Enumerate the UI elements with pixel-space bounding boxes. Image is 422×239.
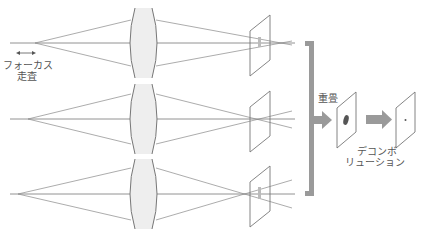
deconvolution-label-line2: リューション — [345, 157, 405, 168]
focus-sweep-label-line1: フォーカス — [3, 60, 53, 71]
row-2-setup — [10, 84, 295, 154]
row-3-setup — [10, 159, 295, 229]
superposition-bracket — [305, 41, 314, 196]
focus-sweep-label-line2: 走査 — [17, 71, 37, 82]
focus-sweep-arrow-icon — [16, 51, 36, 55]
deconvolved-image-plane — [396, 92, 415, 148]
superposition-label: 重畳 — [318, 93, 338, 104]
superposed-image-plane — [337, 92, 356, 148]
deconvolution-arrow-icon — [366, 110, 392, 129]
optical-diagram — [0, 0, 422, 239]
deconvolution-label-line1: デコンボ — [357, 146, 397, 157]
superposition-arrow-icon — [313, 111, 332, 129]
